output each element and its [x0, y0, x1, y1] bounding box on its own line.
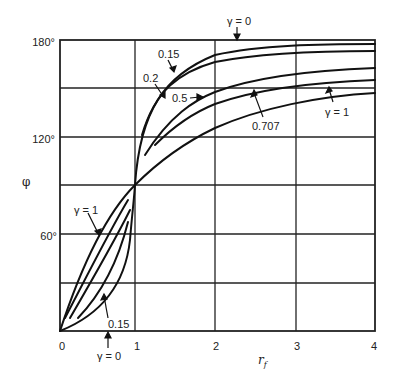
x-tick-4: 4 — [371, 340, 377, 352]
annotation-0.15-bottom: 0.15 — [108, 318, 129, 330]
annotation-gamma-1-left: γ = 1 — [74, 204, 98, 216]
annotation-0.5: 0.5 — [172, 92, 187, 104]
annotation-0.2: 0.2 — [143, 72, 158, 84]
x-tick-2: 2 — [213, 340, 219, 352]
y-axis-label: φ — [22, 175, 30, 189]
y-tick-120: 120° — [32, 133, 55, 145]
x-tick-3: 3 — [294, 340, 300, 352]
y-tick-180: 180° — [32, 36, 55, 48]
x-tick-1: 1 — [134, 340, 140, 352]
phase-chart: 180° 120° 60° φ 0 1 2 3 4 rf γ = 0 0.15 … — [0, 0, 395, 380]
x-tick-0: 0 — [59, 340, 65, 352]
curves — [60, 44, 375, 331]
annotation-0.707: 0.707 — [252, 120, 280, 132]
x-axis-label: rf — [258, 353, 269, 369]
annotation-0.15-top: 0.15 — [158, 48, 179, 60]
annotation-gamma-1-right: γ = 1 — [325, 106, 349, 118]
annotation-gamma-0-bottom: γ = 0 — [97, 350, 121, 362]
curve-gamma-0.5-lower — [70, 210, 130, 318]
curve-gamma-0.707-lower — [65, 200, 128, 318]
annotation-gamma-0-top: γ = 0 — [227, 15, 251, 27]
y-tick-60: 60° — [40, 230, 57, 242]
